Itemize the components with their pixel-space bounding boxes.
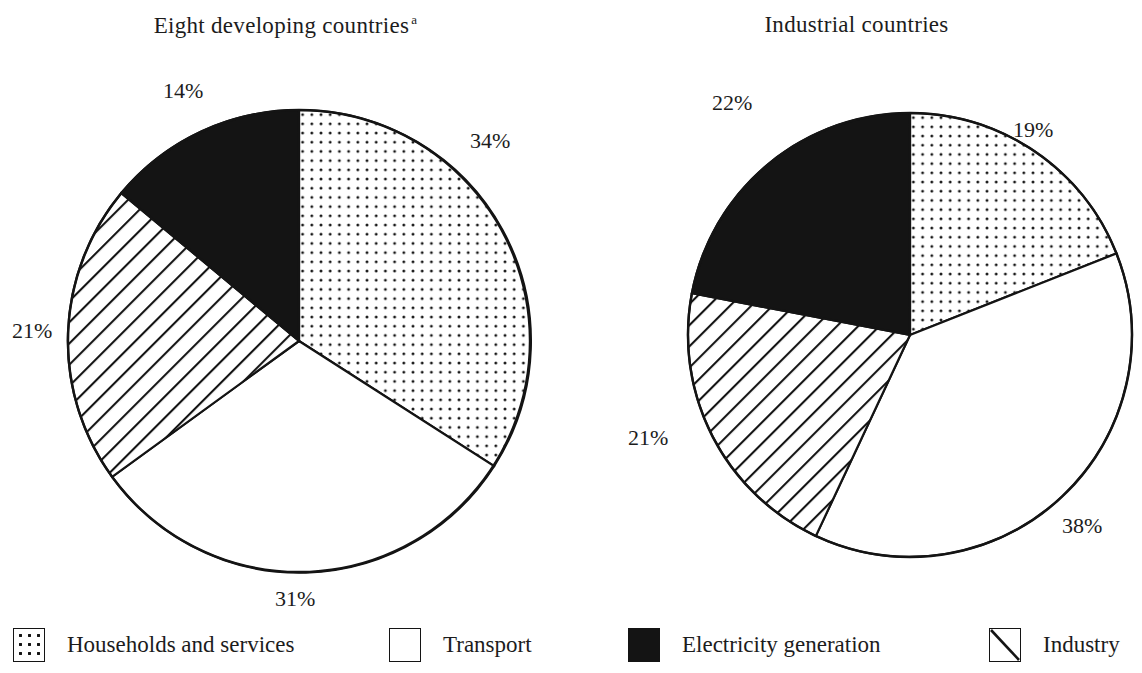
panel-title-right-text: Industrial countries bbox=[764, 12, 948, 37]
legend-label-electricity: Electricity generation bbox=[682, 632, 881, 658]
pie-left-svg bbox=[68, 110, 530, 572]
pie-right-label-industry: 21% bbox=[628, 425, 668, 451]
empty-square-icon bbox=[389, 628, 421, 662]
panel-title-left: Eight developing countriesa bbox=[0, 12, 571, 39]
legend-item-industry: Industry bbox=[989, 628, 1120, 662]
legend: Households and services Transport Electr… bbox=[0, 628, 1142, 673]
pie-right-label-electricity: 22% bbox=[712, 90, 752, 116]
pie-left-label-transport: 31% bbox=[275, 586, 315, 612]
pie-right-label-transport: 38% bbox=[1062, 513, 1102, 539]
legend-label-industry: Industry bbox=[1043, 632, 1120, 658]
pie-left-label-electricity: 14% bbox=[163, 78, 203, 104]
pie-right-label-households: 19% bbox=[1013, 117, 1053, 143]
legend-item-electricity: Electricity generation bbox=[628, 628, 881, 662]
panel-title-left-text: Eight developing countries bbox=[154, 13, 410, 38]
energy-consumption-pie-figure: Eight developing countriesa Industrial c… bbox=[0, 0, 1142, 673]
pie-chart-developing-countries bbox=[68, 110, 530, 572]
hatched-square-glyph bbox=[990, 629, 1020, 661]
pie-chart-industrial-countries bbox=[688, 113, 1132, 557]
panel-title-left-superscript: a bbox=[411, 12, 417, 27]
pie-left-label-households: 34% bbox=[470, 128, 510, 154]
legend-item-transport: Transport bbox=[389, 628, 532, 662]
hatched-square-icon bbox=[989, 628, 1021, 662]
legend-label-households: Households and services bbox=[67, 632, 294, 658]
legend-item-households: Households and services bbox=[13, 628, 294, 662]
panel-title-right: Industrial countries bbox=[571, 12, 1142, 38]
filled-square-icon bbox=[628, 628, 660, 662]
pie-left-label-industry: 21% bbox=[12, 318, 52, 344]
legend-label-transport: Transport bbox=[443, 632, 532, 658]
pie-right-svg bbox=[688, 113, 1132, 557]
dotted-square-icon bbox=[13, 628, 45, 662]
